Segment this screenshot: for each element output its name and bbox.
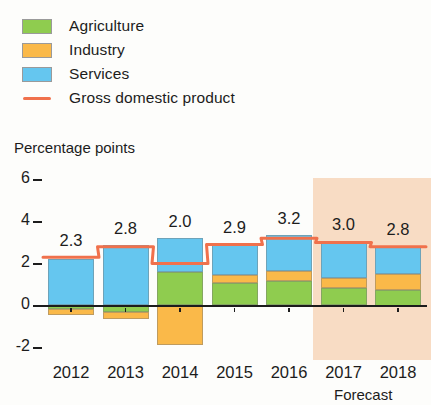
chart-root: Agriculture Industry Services Gross dome… [0,0,431,405]
forecast-note-label: Forecast [334,386,392,403]
plot-area: 6420-220122.320132.820142.020152.920163.… [0,0,431,405]
gdp-line-path [43,238,426,263]
gdp-line-series [0,0,431,405]
